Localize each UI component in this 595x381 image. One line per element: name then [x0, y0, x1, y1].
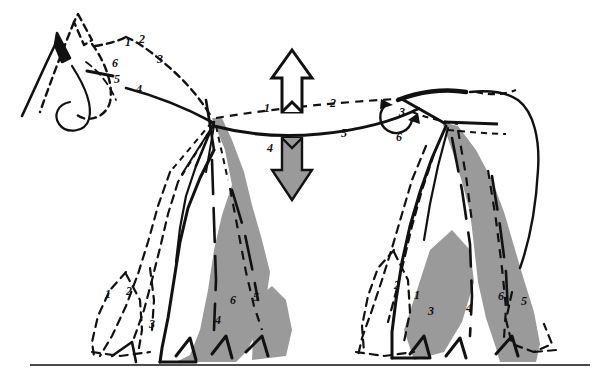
- label-left-2: 2: [126, 285, 132, 297]
- label-back-2: 2: [330, 97, 336, 109]
- label-back-1: 1: [264, 102, 270, 114]
- label-head-4: 4: [136, 83, 142, 95]
- ear-dashed: [74, 14, 92, 45]
- label-left-4: 4: [215, 314, 221, 326]
- label-head-5: 5: [114, 73, 120, 85]
- label-right-6: 6: [498, 290, 504, 302]
- label-croup-6: 6: [396, 131, 402, 143]
- label-left-5: 5: [253, 291, 259, 303]
- neck-topline-dashed: [126, 37, 212, 118]
- label-right-1: 1: [414, 289, 420, 301]
- label-left-6: 6: [230, 294, 236, 306]
- label-right-4: 4: [466, 302, 472, 314]
- hip-line-solid: [444, 122, 498, 124]
- jaw-curve: [56, 66, 89, 131]
- label-head-2: 2: [139, 33, 145, 45]
- label-head-3: 3: [157, 53, 163, 65]
- left-hoof-dashedpair: [112, 342, 136, 362]
- label-croup-3: 3: [399, 106, 405, 118]
- right-limb-inner-edge: [424, 128, 448, 240]
- croup-top-solid: [398, 90, 466, 100]
- diagram-canvas: 1 2 3 4 5 6 1 2 4 5 3 6 1 2 3 4 5 6 2 1 …: [0, 0, 595, 381]
- label-back-5: 5: [341, 127, 347, 139]
- gray-limb-fills: [176, 118, 540, 362]
- label-right-2: 2: [394, 279, 400, 291]
- label-head-1: 1: [125, 36, 131, 48]
- diagram-svg: [0, 0, 595, 381]
- angle-arrow-right: [408, 113, 420, 124]
- label-right-3: 3: [428, 305, 434, 317]
- poll-dashed: [95, 37, 126, 46]
- label-left-3: 3: [149, 318, 155, 330]
- label-back-4: 4: [267, 142, 273, 154]
- face-profile: [22, 45, 55, 116]
- label-head-6: 6: [112, 57, 118, 69]
- left-limb-solid: [112, 150, 214, 362]
- label-left-1: 1: [105, 288, 111, 300]
- label-right-5: 5: [521, 295, 527, 307]
- croup-slope-solid: [400, 98, 446, 124]
